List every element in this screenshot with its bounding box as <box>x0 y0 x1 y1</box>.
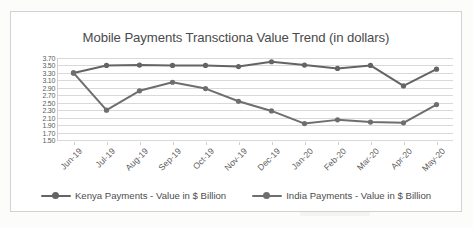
y-axis-tick-label: 2.50 <box>43 99 55 106</box>
data-point[interactable] <box>401 120 406 125</box>
legend-label: Kenya Payments - Value in $ Billion <box>75 190 226 201</box>
y-axis-tick-label: 3.50 <box>43 62 55 69</box>
x-axis-tick <box>206 142 207 145</box>
data-point[interactable] <box>203 86 208 91</box>
y-axis-tick-label: 1.50 <box>43 137 55 144</box>
data-point[interactable] <box>236 99 241 104</box>
y-axis-tick-label: 3.30 <box>43 69 55 76</box>
data-point[interactable] <box>368 63 373 68</box>
legend-item-india[interactable]: India Payments - Value in $ Billion <box>252 190 431 201</box>
data-point[interactable] <box>434 67 439 72</box>
x-axis-tick <box>305 142 306 145</box>
data-point[interactable] <box>104 63 109 68</box>
data-point[interactable] <box>269 59 274 64</box>
data-point[interactable] <box>335 66 340 71</box>
x-axis-tick <box>107 142 108 145</box>
chart-legend[interactable]: Kenya Payments - Value in $ BillionIndia… <box>11 190 461 201</box>
data-point[interactable] <box>236 64 241 69</box>
data-point[interactable] <box>170 63 175 68</box>
legend-marker-icon <box>252 191 282 200</box>
series-line-india <box>74 73 437 124</box>
data-point[interactable] <box>104 108 109 113</box>
y-axis-tick-label: 2.10 <box>43 114 55 121</box>
data-point[interactable] <box>302 121 307 126</box>
legend-item-kenya[interactable]: Kenya Payments - Value in $ Billion <box>41 190 226 201</box>
y-axis-tick-label: 2.90 <box>43 84 55 91</box>
x-axis-tick <box>437 142 438 145</box>
data-point[interactable] <box>137 88 142 93</box>
x-axis-tick <box>74 142 75 145</box>
y-axis-tick-label: 2.30 <box>43 107 55 114</box>
x-axis-tick <box>272 142 273 145</box>
x-axis-tick <box>239 142 240 145</box>
x-axis-tick <box>173 142 174 145</box>
x-axis-tick <box>140 142 141 145</box>
chart-container[interactable]: Mobile Payments Transctiona Value Trend … <box>10 11 462 212</box>
chart-title: Mobile Payments Transctiona Value Trend … <box>11 30 461 45</box>
legend-label: India Payments - Value in $ Billion <box>286 190 431 201</box>
data-point[interactable] <box>335 117 340 122</box>
y-axis-tick-label: 3.10 <box>43 77 55 84</box>
y-axis-tick-label: 3.70 <box>43 55 55 62</box>
y-axis-tick-label: 1.90 <box>43 122 55 129</box>
data-point[interactable] <box>302 62 307 67</box>
x-axis-tick <box>371 142 372 145</box>
scanned-page-background: Mobile Payments Transctiona Value Trend … <box>0 0 473 228</box>
data-point[interactable] <box>203 63 208 68</box>
x-axis-tick-labels: Jun-19Jul-19Aug-19Sep-19Oct-19Nov-19Dec-… <box>57 142 453 188</box>
data-point[interactable] <box>368 120 373 125</box>
data-point[interactable] <box>269 108 274 113</box>
series-line-kenya <box>74 62 437 86</box>
y-axis-tick-label: 2.70 <box>43 92 55 99</box>
legend-marker-icon <box>41 191 71 200</box>
data-point[interactable] <box>71 70 76 75</box>
x-axis-tick <box>338 142 339 145</box>
y-axis-tick-labels: 3.703.503.303.102.902.702.502.302.101.90… <box>23 58 55 140</box>
x-axis-tick <box>404 142 405 145</box>
data-point[interactable] <box>434 102 439 107</box>
data-point[interactable] <box>137 62 142 67</box>
y-axis-tick-label: 1.70 <box>43 129 55 136</box>
data-point[interactable] <box>170 80 175 85</box>
data-point[interactable] <box>401 83 406 88</box>
